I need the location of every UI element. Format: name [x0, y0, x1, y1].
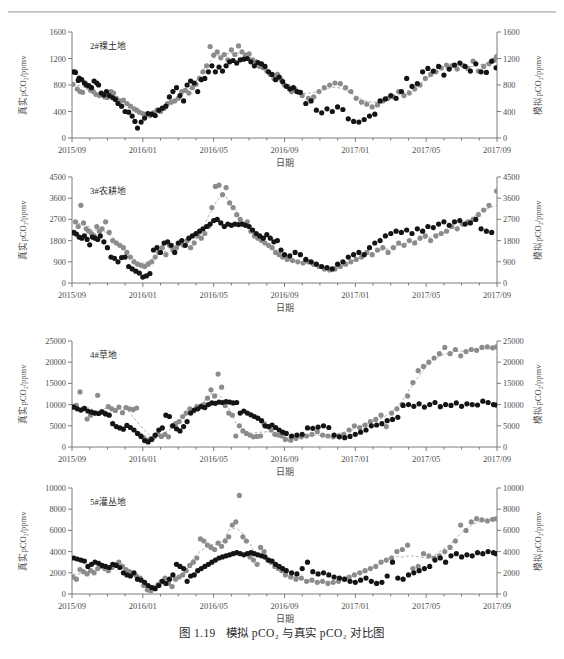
data-point: [481, 64, 486, 69]
data-point: [332, 433, 337, 438]
data-point: [405, 543, 410, 548]
x-tick-label: 2017/01: [341, 601, 369, 611]
data-point: [270, 245, 275, 250]
data-point: [433, 233, 438, 238]
data-point: [236, 43, 241, 48]
left-y-tick-label: 4500: [49, 173, 66, 182]
data-point: [202, 76, 207, 81]
data-point: [452, 219, 457, 224]
data-point: [325, 581, 330, 586]
x-tick-label: 2016/05: [200, 454, 228, 464]
x-tick-label: 2017/01: [341, 145, 369, 155]
left-y-tick-label: 900: [54, 258, 66, 267]
data-point: [404, 227, 409, 232]
data-point: [406, 572, 411, 577]
data-point: [480, 399, 485, 404]
data-point: [194, 555, 199, 560]
data-point: [474, 348, 479, 353]
data-point: [280, 79, 285, 84]
data-point: [396, 240, 401, 245]
data-point: [458, 523, 463, 528]
data-point: [319, 110, 324, 115]
data-point: [415, 226, 420, 231]
data-point: [139, 434, 144, 439]
data-point: [463, 64, 468, 69]
data-point: [479, 226, 484, 231]
data-point: [485, 518, 490, 523]
data-point: [98, 233, 103, 238]
data-point: [417, 236, 422, 241]
data-point: [128, 255, 133, 260]
data-point: [139, 120, 144, 125]
data-point: [298, 90, 303, 95]
data-point: [326, 425, 331, 430]
data-point: [287, 253, 292, 258]
data-point: [216, 372, 221, 377]
data-point: [494, 344, 499, 349]
chart-svg-1: 0040040080080012001200160016002015/09201…: [0, 16, 564, 169]
left-y-tick-label: 3600: [49, 194, 66, 203]
data-point: [380, 245, 385, 250]
data-point: [432, 400, 437, 405]
x-tick-label: 2017/09: [483, 454, 511, 464]
data-point: [378, 413, 383, 418]
data-point: [431, 69, 436, 74]
data-point: [73, 219, 78, 224]
data-point: [486, 203, 491, 208]
x-tick-label: 2016/01: [129, 145, 157, 155]
data-point: [309, 98, 314, 103]
data-point: [351, 252, 356, 257]
data-point: [379, 421, 384, 426]
data-point: [356, 120, 361, 125]
data-point: [153, 113, 158, 118]
data-point: [359, 100, 364, 105]
x-tick-label: 2016/05: [200, 290, 228, 300]
data-point: [147, 271, 152, 276]
data-point: [284, 568, 289, 573]
data-point: [432, 355, 437, 360]
x-tick-label: 2016/05: [200, 601, 228, 611]
data-point: [425, 66, 430, 71]
data-point: [153, 255, 158, 260]
right-y-tick-label: 0: [503, 443, 507, 452]
data-point: [294, 571, 299, 576]
data-point: [410, 380, 415, 385]
right-y-tick-label: 15000: [503, 379, 524, 388]
data-point: [411, 404, 416, 409]
data-point: [423, 76, 428, 81]
data-point: [259, 418, 264, 423]
data-point: [240, 534, 245, 539]
data-point: [385, 418, 390, 423]
x-tick-label: 2015/09: [58, 290, 86, 300]
data-point: [470, 402, 475, 407]
data-point: [231, 205, 236, 210]
data-point: [422, 566, 427, 571]
data-point: [373, 564, 378, 569]
data-point: [441, 219, 446, 224]
data-point: [305, 425, 310, 430]
data-point: [209, 205, 214, 210]
data-point: [135, 126, 140, 131]
data-point: [324, 106, 329, 111]
data-point: [391, 245, 396, 250]
data-point: [389, 411, 394, 416]
data-point: [379, 580, 384, 585]
data-point: [255, 562, 260, 567]
data-point: [220, 69, 225, 74]
left-y-tick-label: 10000: [45, 401, 66, 410]
data-point: [470, 553, 475, 558]
data-point: [230, 413, 235, 418]
data-point: [457, 61, 462, 66]
data-point: [107, 230, 112, 235]
data-point: [316, 571, 321, 576]
data-point: [298, 252, 303, 257]
data-point: [163, 104, 168, 109]
right-y-tick-label: 10000: [503, 401, 524, 410]
right-axis-title: 模拟pCO₂/ppmv: [532, 55, 543, 115]
data-point: [208, 387, 213, 392]
data-point: [321, 570, 326, 575]
right-y-tick-label: 0: [503, 279, 507, 288]
data-point: [82, 559, 87, 564]
data-point: [412, 240, 417, 245]
data-point: [374, 422, 379, 427]
